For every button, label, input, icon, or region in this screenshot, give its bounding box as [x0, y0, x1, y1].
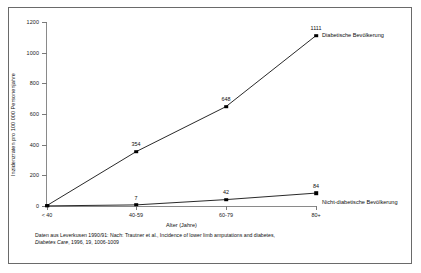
marker-nondiabetic-80plus[interactable] — [314, 191, 318, 195]
value-label-nondiabetic-80plus: 84 — [313, 183, 319, 189]
marker-nondiabetic-60-79[interactable] — [224, 198, 228, 202]
series-label-nondiabetic: Nicht-diabetische Bevölkerung — [322, 199, 398, 206]
marker-diabetic-60-79[interactable] — [224, 105, 228, 109]
marker-diabetic-80plus[interactable] — [314, 34, 318, 38]
series-label-diabetic: Diabetische Bevölkerung — [322, 32, 384, 39]
marker-diabetic-40-59[interactable] — [134, 150, 138, 154]
footnote: Daten aus Leverkusen 1990/91: Nach: Trau… — [35, 232, 365, 246]
marker-nondiabetic-under40[interactable] — [45, 204, 49, 208]
value-label-nondiabetic-40-59: 7 — [135, 195, 138, 201]
value-label-diabetic-60-79: 648 — [222, 96, 231, 102]
value-label-nondiabetic-60-79: 42 — [223, 189, 229, 195]
line-diabetic — [47, 36, 316, 206]
figure-container: 1200 1000 800 600 400 200 0 Inzidenzrate… — [0, 0, 421, 273]
value-label-diabetic-40-59: 354 — [132, 141, 141, 147]
line-nondiabetic — [47, 193, 316, 206]
footnote-line-2: Diabetes Care, 1996, 19, 1006-1009 — [35, 239, 365, 246]
value-label-diabetic-80plus: 1111 — [311, 25, 322, 31]
footnote-line-1: Daten aus Leverkusen 1990/91: Nach: Trau… — [35, 232, 365, 239]
footnote-citation: , 1996, 19, 1006-1009 — [68, 239, 119, 245]
marker-nondiabetic-40-59[interactable] — [134, 203, 138, 207]
footnote-journal: Diabetes Care — [35, 239, 68, 245]
